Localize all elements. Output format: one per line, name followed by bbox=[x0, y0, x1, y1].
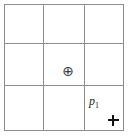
circled-plus-icon: ⊕ bbox=[61, 64, 75, 78]
grid-line-horizontal-1 bbox=[5, 43, 123, 44]
point-p1-label: p1 bbox=[89, 95, 99, 107]
plus-point-marker bbox=[108, 115, 119, 126]
grid-frame: ⊕ p1 bbox=[4, 4, 124, 131]
grid-line-vertical-2 bbox=[84, 5, 85, 130]
point-p1-label-subscript: 1 bbox=[95, 101, 99, 110]
grid-line-horizontal-2 bbox=[5, 85, 123, 86]
grid-line-vertical-1 bbox=[43, 5, 44, 130]
point-p1-group: p1 bbox=[89, 95, 127, 129]
grid-diagram-figure: ⊕ p1 bbox=[0, 0, 129, 137]
